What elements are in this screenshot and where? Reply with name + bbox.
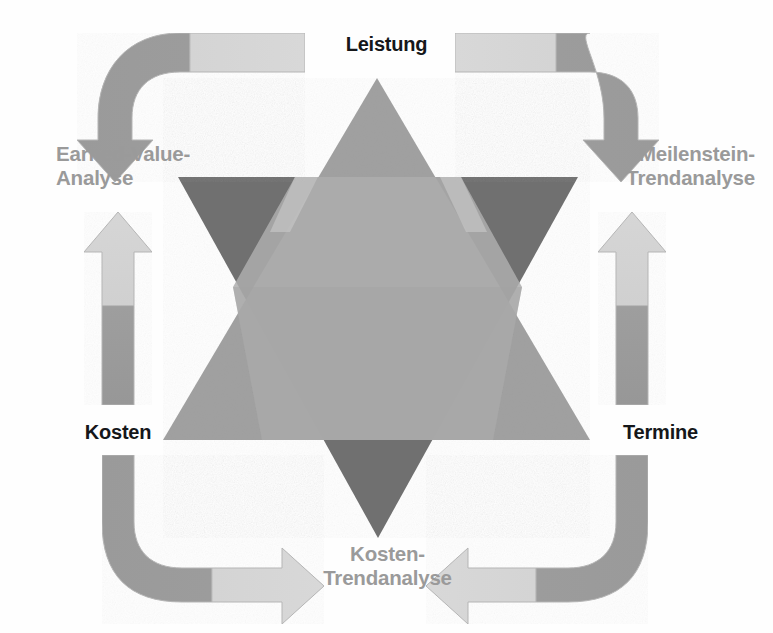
method-label-earned-value-analyse: Earned-Value- Analyse bbox=[56, 142, 271, 190]
corner-label-kosten: Kosten bbox=[38, 421, 198, 445]
meilenstein-to-termine-arrow bbox=[598, 212, 666, 405]
termine-to-kosten-trendanalyse-arrow bbox=[426, 455, 648, 624]
diagram-canvas: Leistung Kosten Termine Earned-Value- An… bbox=[0, 0, 773, 633]
method-label-meilenstein-trendanalyse: Meilenstein- Trendanalyse bbox=[520, 142, 755, 190]
earned-value-to-kosten-arrow bbox=[84, 212, 152, 405]
method-label-kosten-trendanalyse: Kosten- Trendanalyse bbox=[265, 542, 510, 590]
kosten-to-kosten-trendanalyse-arrow bbox=[102, 455, 324, 624]
corner-label-termine: Termine bbox=[578, 421, 743, 445]
diagram-graphics bbox=[0, 0, 773, 633]
corner-label-leistung: Leistung bbox=[0, 33, 773, 57]
center-tone-band bbox=[233, 287, 522, 440]
